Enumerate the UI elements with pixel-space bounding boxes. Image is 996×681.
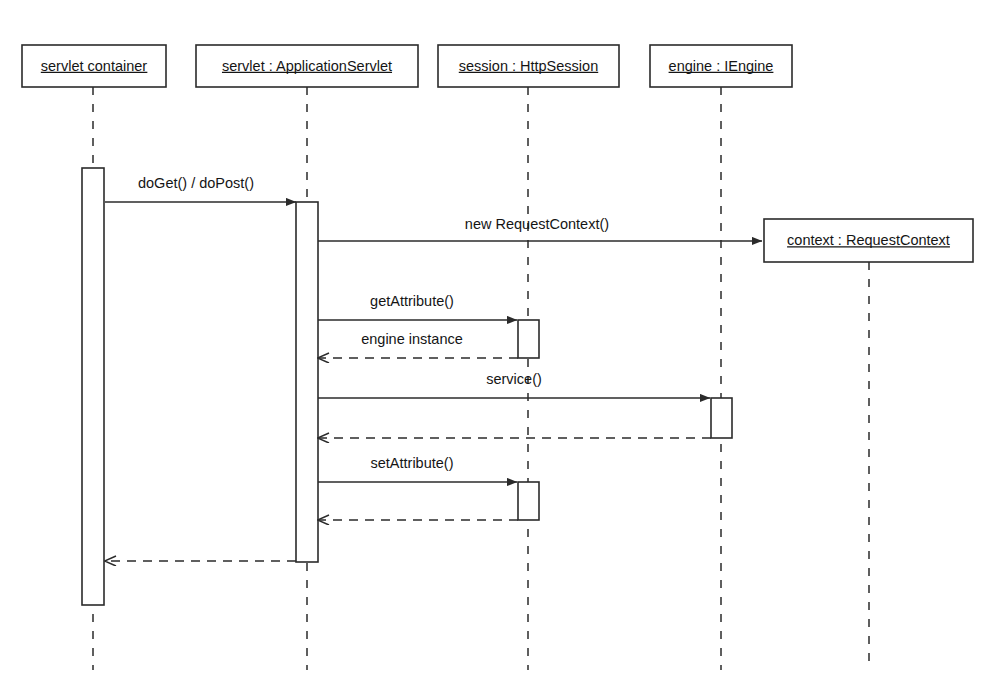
lifeline-context[interactable]: context : RequestContext bbox=[764, 219, 973, 670]
message-msg-getattribute[interactable]: getAttribute() bbox=[318, 293, 517, 320]
activation-bar-act-servlet[interactable] bbox=[296, 202, 318, 562]
activation-bar-act-session-get[interactable] bbox=[518, 320, 539, 358]
message-label-msg-new-requestcontext: new RequestContext() bbox=[465, 216, 609, 232]
message-label-msg-doget: doGet() / doPost() bbox=[138, 175, 254, 191]
message-label-msg-setattribute: setAttribute() bbox=[371, 455, 454, 471]
message-msg-setattribute[interactable]: setAttribute() bbox=[318, 455, 517, 482]
message-label-msg-getattribute: getAttribute() bbox=[370, 293, 454, 309]
activations-layer bbox=[82, 168, 732, 605]
message-msg-new-requestcontext[interactable]: new RequestContext() bbox=[318, 216, 762, 241]
lifeline-label-context: context : RequestContext bbox=[787, 232, 950, 248]
message-msg-service[interactable]: service() bbox=[318, 371, 710, 398]
message-msg-engine-instance[interactable]: engine instance bbox=[318, 331, 518, 358]
lifeline-engine[interactable]: engine : IEngine bbox=[650, 45, 792, 670]
lifeline-label-engine: engine : IEngine bbox=[669, 58, 774, 74]
message-label-msg-engine-instance: engine instance bbox=[361, 331, 463, 347]
sequence-diagram: servlet containerservlet : ApplicationSe… bbox=[0, 0, 996, 681]
lifeline-label-session: session : HttpSession bbox=[459, 58, 598, 74]
message-label-msg-service: service() bbox=[486, 371, 542, 387]
activation-bar-act-session-set[interactable] bbox=[518, 482, 539, 520]
message-msg-doget[interactable]: doGet() / doPost() bbox=[105, 175, 296, 202]
diagram-canvas: servlet containerservlet : ApplicationSe… bbox=[0, 0, 996, 681]
messages-layer: doGet() / doPost()new RequestContext()ge… bbox=[105, 175, 762, 561]
activation-bar-act-container[interactable] bbox=[82, 168, 104, 605]
activation-bar-act-engine-service[interactable] bbox=[711, 398, 732, 438]
lifeline-label-servlet: servlet : ApplicationServlet bbox=[222, 58, 392, 74]
lifeline-label-container: servlet container bbox=[41, 58, 148, 74]
